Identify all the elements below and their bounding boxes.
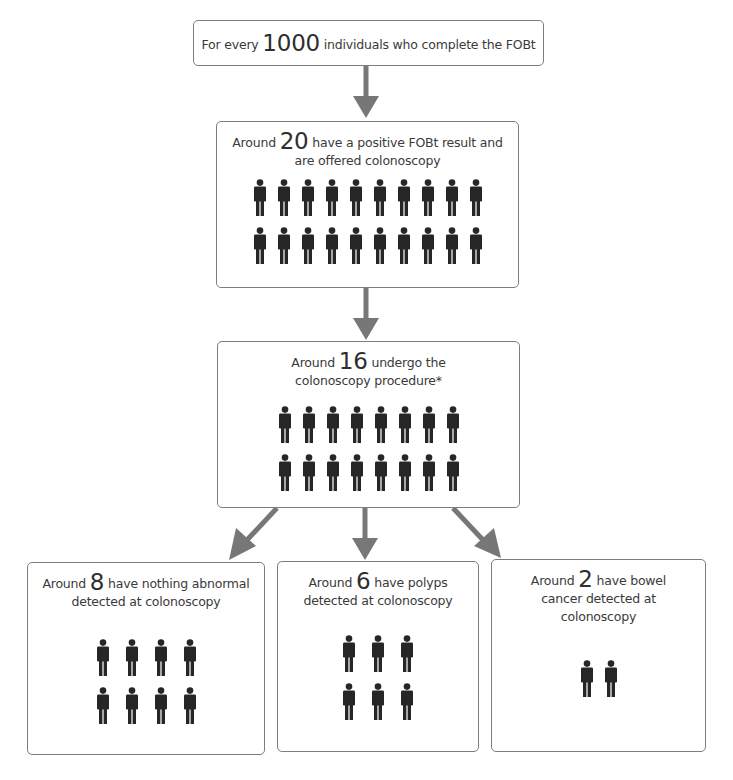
person-icon: [297, 406, 321, 444]
person-icon: [337, 635, 361, 673]
arrow-step1-to-step2: [353, 66, 379, 118]
outcome-normal-box: Around 8 have nothing abnormal detected …: [27, 562, 265, 755]
outcome-cancer-prefix: Around: [531, 573, 575, 588]
person-icon: [296, 227, 320, 265]
person-icon: [321, 406, 345, 444]
person-icon: [440, 227, 464, 265]
person-icon: [273, 406, 297, 444]
step1-caption: For every 1000 individuals who complete …: [194, 34, 543, 54]
outcome-cancer-number: 2: [578, 566, 592, 592]
step3-caption: Around 16 undergo the colonoscopy proced…: [218, 352, 519, 390]
outcome-normal-number: 8: [90, 569, 104, 595]
person-icon: [248, 227, 272, 265]
person-icon: [395, 635, 419, 673]
step3-people-grid: [218, 406, 519, 492]
person-icon: [368, 179, 392, 217]
person-icon: [337, 683, 361, 721]
person-icon: [120, 639, 144, 677]
step2-caption: Around 20 have a positive FOBt result an…: [217, 132, 518, 170]
arrow-step3-to-outcome-cancer: [453, 508, 501, 558]
person-icon: [320, 179, 344, 217]
step3-prefix: Around: [291, 355, 335, 370]
step1-suffix: individuals who complete the FOBt: [324, 37, 536, 52]
step2-people-grid: [217, 179, 518, 265]
person-icon: [441, 454, 465, 492]
person-icon: [368, 227, 392, 265]
outcome-normal-caption: Around 8 have nothing abnormal detected …: [28, 573, 264, 611]
person-icon: [320, 227, 344, 265]
person-icon: [248, 179, 272, 217]
person-icon: [273, 454, 297, 492]
person-icon: [91, 687, 115, 725]
person-icon: [392, 179, 416, 217]
person-icon: [272, 179, 296, 217]
step1-box: For every 1000 individuals who complete …: [193, 20, 544, 66]
step2-suffix: have a positive FOBt result and are offe…: [295, 135, 503, 168]
step2-number: 20: [280, 128, 309, 154]
outcome-normal-people-grid: [28, 639, 264, 725]
person-icon: [178, 687, 202, 725]
person-icon: [366, 635, 390, 673]
person-icon: [344, 227, 368, 265]
person-icon: [344, 179, 368, 217]
step2-box: Around 20 have a positive FOBt result an…: [216, 121, 519, 288]
person-icon: [178, 639, 202, 677]
outcome-cancer-caption: Around 2 have bowel cancer detected at c…: [492, 570, 705, 626]
step1-number: 1000: [262, 30, 320, 56]
person-icon: [599, 660, 623, 698]
person-icon: [369, 454, 393, 492]
step1-prefix: For every: [202, 37, 259, 52]
outcome-polyps-box: Around 6 have polyps detected at colonos…: [277, 561, 479, 752]
person-icon: [395, 683, 419, 721]
outcome-polyps-people-grid: [278, 635, 478, 721]
outcome-polyps-number: 6: [356, 568, 370, 594]
outcome-cancer-people-grid: [492, 660, 705, 698]
person-icon: [149, 687, 173, 725]
person-icon: [296, 179, 320, 217]
person-icon: [393, 406, 417, 444]
person-icon: [464, 227, 488, 265]
outcome-polyps-prefix: Around: [309, 575, 353, 590]
person-icon: [345, 454, 369, 492]
person-icon: [369, 406, 393, 444]
person-icon: [272, 227, 296, 265]
person-icon: [91, 639, 115, 677]
person-icon: [345, 406, 369, 444]
arrow-step3-to-outcome-normal: [229, 508, 277, 560]
person-icon: [149, 639, 173, 677]
person-icon: [417, 406, 441, 444]
outcome-cancer-box: Around 2 have bowel cancer detected at c…: [491, 559, 706, 752]
person-icon: [416, 227, 440, 265]
person-icon: [321, 454, 345, 492]
person-icon: [440, 179, 464, 217]
person-icon: [120, 687, 144, 725]
person-icon: [441, 406, 465, 444]
person-icon: [575, 660, 599, 698]
step3-box: Around 16 undergo the colonoscopy proced…: [217, 341, 520, 508]
step3-number: 16: [339, 348, 368, 374]
person-icon: [392, 227, 416, 265]
person-icon: [464, 179, 488, 217]
person-icon: [297, 454, 321, 492]
outcome-normal-prefix: Around: [42, 576, 86, 591]
step2-prefix: Around: [232, 135, 276, 150]
outcome-polyps-caption: Around 6 have polyps detected at colonos…: [278, 572, 478, 610]
person-icon: [416, 179, 440, 217]
arrow-step2-to-step3: [353, 288, 379, 340]
arrow-step3-to-outcome-polyps: [352, 508, 378, 560]
person-icon: [417, 454, 441, 492]
person-icon: [393, 454, 417, 492]
person-icon: [366, 683, 390, 721]
